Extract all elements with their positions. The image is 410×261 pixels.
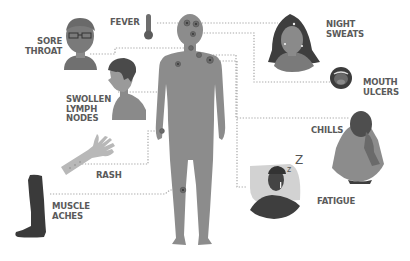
label-fatigue: FATIGUE: [317, 197, 355, 207]
label-mouth-ulcers: MOUTH ULCERS: [363, 78, 399, 97]
symptom-infographic: z Z FEVER SORE THROAT SWOLLEN LYMPH NODE…: [0, 0, 410, 261]
label-fever: FEVER: [110, 18, 140, 28]
label-muscle-aches: MUSCLE ACHES: [52, 202, 90, 221]
label-chills: CHILLS: [311, 126, 343, 136]
sleep-z-large: Z: [295, 156, 303, 166]
sleep-z-small: z: [287, 165, 291, 175]
label-night-sweats: NIGHT SWEATS: [326, 20, 364, 39]
label-swollen-lymph-nodes: SWOLLEN LYMPH NODES: [66, 95, 111, 124]
label-rash: RASH: [96, 171, 122, 181]
label-sore-throat: SORE THROAT: [22, 37, 62, 56]
